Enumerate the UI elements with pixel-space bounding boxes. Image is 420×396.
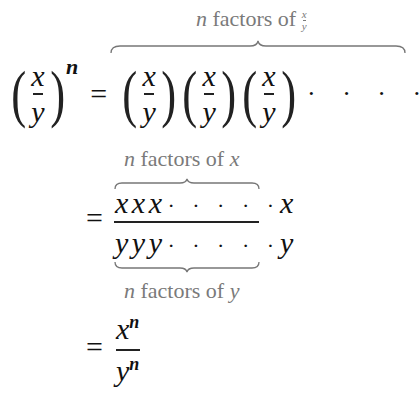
- underbrace: [114, 261, 260, 273]
- lhs-fraction: x y: [29, 59, 46, 129]
- equals-sign-3: =: [86, 330, 103, 364]
- left-paren: (: [11, 62, 26, 126]
- factor-3: x y: [260, 59, 277, 129]
- lhs-exponent: n: [66, 54, 78, 80]
- result-fraction-bar: [116, 349, 140, 351]
- equals-sign: =: [90, 77, 107, 111]
- result-numerator: xn: [116, 312, 139, 346]
- fraction-denominator-terms: y y y · · · · ·y: [115, 226, 293, 260]
- fraction-bar: [114, 221, 259, 223]
- label-text: factors of: [213, 6, 297, 31]
- factor-1: x y: [140, 59, 157, 129]
- right-paren: ): [50, 62, 65, 126]
- factor-2: x y: [200, 59, 217, 129]
- label-n: n: [196, 6, 207, 31]
- label-fraction: x y: [302, 9, 307, 32]
- ellipsis-dots: · · · · ·: [307, 79, 420, 109]
- equals-sign-2: =: [86, 201, 103, 235]
- result-denominator: yn: [116, 354, 139, 388]
- underbrace-label: n factors of y: [124, 278, 239, 304]
- overbrace-label-1: n factors of x y: [196, 6, 307, 32]
- equation-line-1: ( x y ) n = ( x y ) ( x y ) ( x y ) · · …: [8, 52, 420, 136]
- overbrace-label-2: n factors of x: [124, 146, 239, 172]
- fraction-numerator-terms: x x x · · · · ·x: [115, 186, 293, 220]
